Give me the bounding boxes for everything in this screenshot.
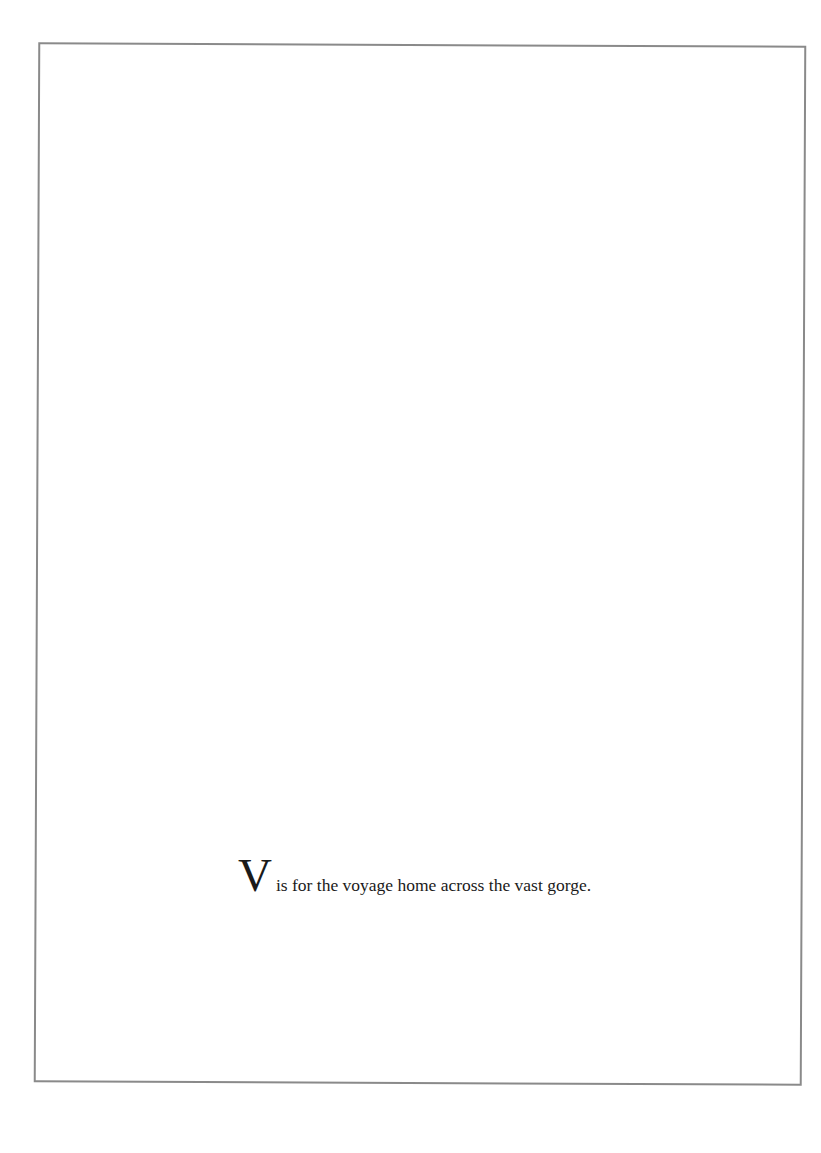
caption-text: is for the voyage home across the vast g… — [276, 875, 591, 895]
drop-cap-letter: V — [238, 849, 272, 901]
page-caption: Vis for the voyage home across the vast … — [238, 852, 591, 899]
page-frame — [34, 42, 807, 1085]
